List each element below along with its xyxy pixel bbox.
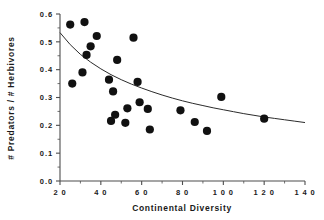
x-tick-label: 1 0 0 — [213, 188, 234, 197]
data-point — [146, 125, 154, 133]
y-tick-label: 0.6 — [40, 10, 53, 19]
y-axis-tick-labels: 0.00.10.20.30.40.50.6 — [40, 10, 53, 186]
data-point — [123, 104, 131, 112]
data-point — [109, 87, 117, 95]
y-tick-label: 0.4 — [40, 65, 53, 74]
data-point — [82, 51, 90, 59]
x-tick-label: 1 2 0 — [254, 188, 275, 197]
data-point — [105, 76, 113, 84]
y-tick-label: 0.2 — [40, 121, 53, 130]
x-tick-label: 8 0 — [176, 188, 189, 197]
data-point — [113, 56, 121, 64]
data-point — [80, 18, 88, 26]
data-point — [66, 20, 74, 28]
y-axis-title: # Predators / # Herbivores — [6, 36, 16, 160]
data-point — [93, 32, 101, 40]
y-tick-label: 0.0 — [40, 177, 53, 186]
scatter-plot-figure: 0.00.10.20.30.40.50.6 2 04 06 08 01 0 01… — [0, 0, 324, 220]
data-point — [136, 98, 144, 106]
x-axis-ticks — [60, 181, 305, 185]
y-tick-label: 0.1 — [40, 149, 53, 158]
y-axis-ticks — [56, 14, 60, 181]
x-axis-tick-labels: 2 04 06 08 01 0 01 2 01 4 0 — [53, 188, 315, 197]
y-tick-label: 0.3 — [40, 93, 53, 102]
x-tick-label: 6 0 — [135, 188, 148, 197]
data-point — [217, 93, 225, 101]
x-tick-label: 4 0 — [94, 188, 107, 197]
data-point — [111, 111, 119, 119]
x-tick-label: 2 0 — [53, 188, 66, 197]
data-point — [133, 78, 141, 86]
data-point — [144, 105, 152, 113]
x-axis-title: Continental Diversity — [132, 203, 232, 213]
scatter-points — [66, 18, 268, 135]
data-point — [129, 34, 137, 42]
data-point — [176, 106, 184, 114]
data-point — [121, 119, 129, 127]
data-point — [203, 127, 211, 135]
data-point — [78, 68, 86, 76]
plot-canvas: 0.00.10.20.30.40.50.6 2 04 06 08 01 0 01… — [0, 0, 324, 220]
x-tick-label: 1 4 0 — [294, 188, 315, 197]
data-point — [260, 115, 268, 123]
data-point — [87, 42, 95, 50]
data-point — [191, 118, 199, 126]
data-point — [68, 79, 76, 87]
y-tick-label: 0.5 — [40, 38, 53, 47]
